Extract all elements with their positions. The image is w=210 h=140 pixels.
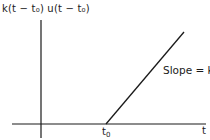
ramp-line [106,32,184,124]
ramp-function-diagram: k(t − t₀) u(t − t₀) Slope = k t0 t [0,0,210,140]
t0-label: t0 [102,127,110,139]
y-axis-label: k(t − t₀) u(t − t₀) [2,4,90,14]
slope-annotation: Slope = k [163,65,210,76]
t0-label-subscript: 0 [106,131,110,139]
x-axis-label: t [202,126,206,136]
